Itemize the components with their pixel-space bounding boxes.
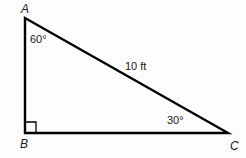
angle-label-at-c: 30° [167, 115, 184, 126]
triangle-shape [25, 18, 228, 133]
triangle-svg [0, 0, 246, 158]
vertex-label-a: A [21, 3, 29, 15]
vertex-label-c: C [230, 140, 239, 152]
angle-label-at-a: 60° [30, 34, 47, 45]
vertex-label-b: B [20, 138, 28, 150]
triangle-diagram: A B C 60° 30° 10 ft [0, 0, 246, 158]
side-length-label-ac: 10 ft [125, 61, 146, 72]
right-angle-marker-icon [25, 122, 36, 133]
